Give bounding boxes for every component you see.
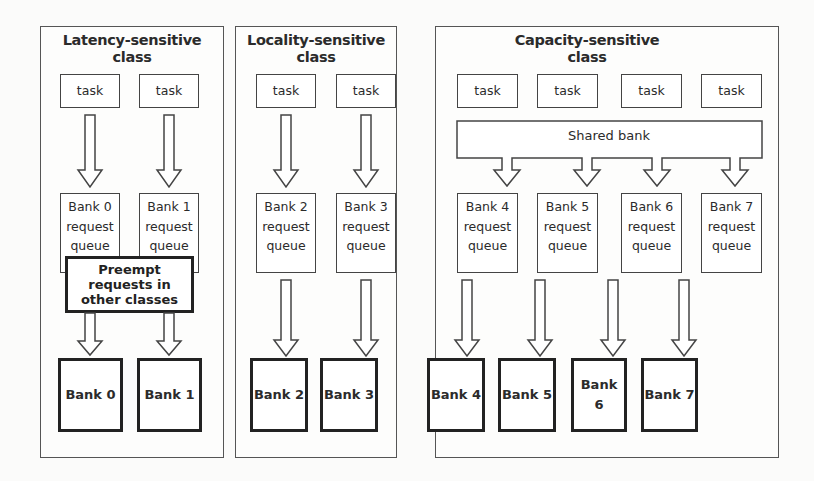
down-arrow-icon <box>527 280 553 358</box>
bank-4: Bank 4 <box>427 358 485 432</box>
bank-7: Bank 7 <box>641 358 698 432</box>
bank-7-request-queue: Bank 7 request queue <box>701 193 762 273</box>
bank-6: Bank 6 <box>571 358 627 432</box>
shared-bank-label: Shared bank <box>456 128 762 143</box>
down-arrow-icon <box>353 280 379 358</box>
task-box: task <box>621 74 682 108</box>
down-arrow-icon <box>454 280 480 358</box>
bank-0: Bank 0 <box>58 358 123 432</box>
preempt-box: Preempt requests in other classes <box>65 256 194 313</box>
task-box: task <box>457 74 518 108</box>
bank-3: Bank 3 <box>320 358 378 432</box>
bank-4-request-queue: Bank 4 request queue <box>457 193 518 273</box>
bank-3-request-queue: Bank 3 request queue <box>336 193 396 273</box>
down-arrow-icon <box>671 280 697 358</box>
panel-title: Locality-sensitive class <box>236 32 396 66</box>
bank-5-request-queue: Bank 5 request queue <box>537 193 598 273</box>
bank-1: Bank 1 <box>137 358 202 432</box>
down-arrow-icon <box>600 280 626 358</box>
task-box: task <box>60 74 120 108</box>
down-arrow-icon <box>77 313 103 358</box>
bank-5: Bank 5 <box>498 358 556 432</box>
down-arrow-icon <box>77 115 103 190</box>
task-box: task <box>336 74 396 108</box>
down-arrow-icon <box>353 115 379 190</box>
bank-2-request-queue: Bank 2 request queue <box>256 193 316 273</box>
panel-title: Capacity-sensitive class <box>396 32 778 66</box>
down-arrow-icon <box>273 115 299 190</box>
task-box: task <box>139 74 199 108</box>
task-box: task <box>701 74 762 108</box>
task-box: task <box>537 74 598 108</box>
bank-6-request-queue: Bank 6 request queue <box>621 193 682 273</box>
down-arrow-icon <box>273 280 299 358</box>
down-arrow-icon <box>156 115 182 190</box>
panel-title: Latency-sensitive class <box>41 32 223 66</box>
bank-2: Bank 2 <box>250 358 308 432</box>
task-box: task <box>256 74 316 108</box>
down-arrow-icon <box>156 313 182 358</box>
